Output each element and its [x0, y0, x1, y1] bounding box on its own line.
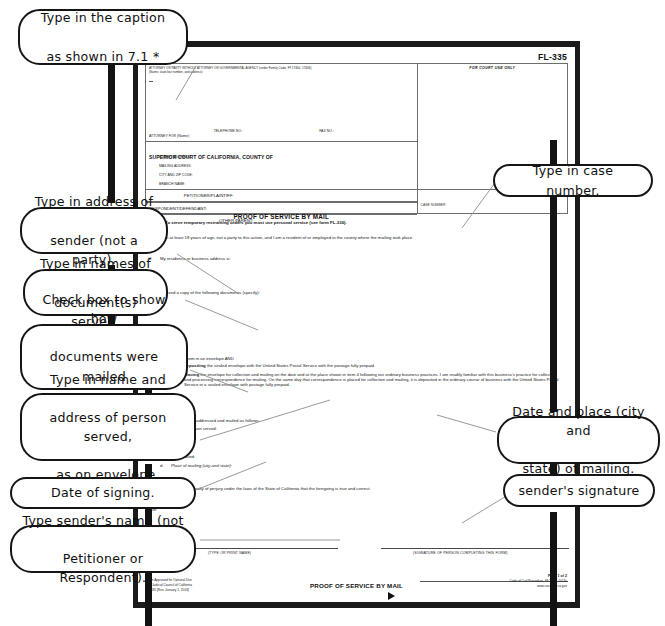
attorney-info-box[interactable]: ATTORNEY OR PARTY WITHOUT ATTORNEY OR GO… [146, 64, 417, 142]
form-page-surface: FL-335 ATTORNEY OR PARTY WITHOUT ATTORNE… [138, 47, 575, 602]
checkbox-a-text: the sealed envelope with the United Stat… [207, 363, 375, 368]
scanned-form-page: FL-335 ATTORNEY OR PARTY WITHOUT ATTORNE… [133, 41, 580, 608]
court-title-row: SUPERIOR COURT OF CALIFORNIA, COUNTY OF [146, 142, 417, 153]
fax-label: FAX NO.: [319, 129, 334, 133]
checkbox-b-text: the envelope for collection and mailing … [184, 372, 559, 387]
item-3-text[interactable]: I served a copy of the following documen… [160, 290, 560, 295]
attorney-for-label: ATTORNEY FOR (Name): [149, 134, 190, 138]
callout-sender-name-line-2: Petitioner or Respondent). [21, 549, 185, 587]
callout-documents-served-line-1: Type in names of [34, 254, 157, 273]
callout-date-of-signing[interactable]: Date of signing. [10, 477, 196, 509]
petitioner-row[interactable]: PETITIONER/PLAINTIFF: [146, 189, 417, 202]
item-5-text: I declare under penalty of perjury under… [160, 486, 560, 491]
footer-title: PROOF OF SERVICE BY MAIL [145, 582, 568, 589]
callout-sender-name[interactable]: Type sender's name (not Petitioner or Re… [10, 525, 196, 573]
item-1-text: I am at least 18 years of age, not a par… [160, 235, 560, 240]
city-zip-row[interactable]: CITY AND ZIP CODE: [146, 171, 417, 180]
party-block: PETITIONER/PLAINTIFF: RESPONDENT/DEFENDA… [146, 189, 417, 213]
mailing-address-row[interactable]: MAILING ADDRESS: [146, 162, 417, 171]
case-number-label: CASE NUMBER: [421, 203, 447, 207]
for-court-use-only-label: FOR COURT USE ONLY [418, 66, 567, 70]
callout-person-served-line-1: Type in name and [31, 370, 185, 389]
attorney-name-tick [149, 81, 153, 82]
callout-caption[interactable]: Type in the caption as shown in 7.1 * [18, 9, 188, 65]
notice-text: NOTICE: To serve temporary restraining o… [146, 220, 347, 225]
form-number: FL-335 [538, 52, 567, 62]
callout-caption-line-1: Type in the caption [29, 8, 177, 27]
callout-sender-address-line-1: Type in address of [31, 192, 157, 211]
item-2-text[interactable]: My residence or business address is: [160, 256, 560, 261]
callout-senders-signature-line-1: sender's signature [514, 481, 644, 500]
signature-caption: (SIGNATURE OF PERSON COMPLETING THIS FOR… [413, 551, 508, 555]
branch-name-row[interactable]: BRANCH NAME: [146, 180, 417, 189]
form-footer: Form Approved for Optional Use Judicial … [145, 574, 568, 598]
callout-person-served-line-2: address of person served, [31, 408, 185, 446]
attorney-header-line2: (Name, state bar number, and address): [149, 70, 414, 74]
callout-case-number-line-1: Type in case number. [504, 161, 642, 199]
petitioner-label: PETITIONER/PLAINTIFF: [184, 193, 234, 198]
callout-sender-address[interactable]: Type in address of sender (not a party). [20, 207, 168, 254]
right-connector-bar-2 [550, 196, 557, 412]
footer-right: Page 1 of 2 Code of Civil Procedure, §§ … [509, 574, 567, 589]
callout-sender-name-line-1: Type sender's name (not [21, 511, 185, 530]
caption-left-column: ATTORNEY OR PARTY WITHOUT ATTORNEY OR GO… [146, 64, 418, 213]
callout-date-place-mailing[interactable]: Date and place (city and state) of maili… [497, 416, 660, 464]
street-address-row[interactable]: STREET ADDRESS: [146, 153, 417, 162]
callout-senders-signature[interactable]: sender's signature [503, 474, 655, 507]
signature-rule[interactable] [381, 548, 569, 549]
form-title-bar: PROOF OF SERVICE BY MAIL [146, 201, 417, 213]
form-title: PROOF OF SERVICE BY MAIL [233, 213, 329, 220]
callout-case-number[interactable]: Type in case number. [493, 164, 653, 197]
right-connector-bar-4 [550, 512, 557, 626]
item-4d-text: Place of mailing (city and state): [171, 463, 560, 468]
left-connector-bar-1 [108, 48, 115, 203]
telephone-label: TELEPHONE NO.: [214, 129, 243, 133]
item-4-text: The envelope was addressed and mailed as… [160, 418, 560, 423]
print-name-caption: (TYPE OR PRINT NAME) [208, 551, 251, 555]
callout-date-of-signing-line-1: Date of signing. [21, 483, 185, 502]
footer-url-line: www.courtinfo.ca.gov [509, 584, 567, 589]
callout-check-box-line-1: Check box to show how [31, 290, 177, 328]
callout-date-place-line-1: Date and place (city and [508, 402, 649, 440]
callout-person-served[interactable]: Type in name and address of person serve… [20, 393, 196, 461]
callout-caption-line-2: as shown in 7.1 * [29, 47, 177, 66]
